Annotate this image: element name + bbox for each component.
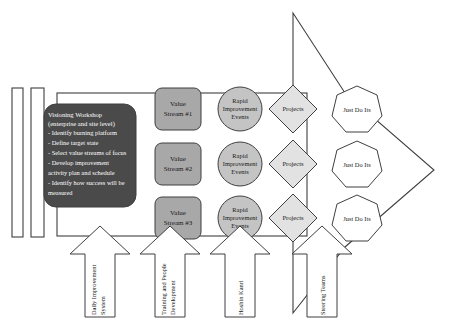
enabler-arrow-2-line1: Training and People [160,263,167,315]
enabler-arrow-1-line2: System [99,296,106,315]
left-bar-1 [12,88,23,237]
diagram-svg: Visioning Workshop (enterprise and site … [0,0,449,329]
rie-1-line2: Improvement [223,105,258,112]
visioning-bullet-4: - Develop improvement [48,159,109,166]
just-do-it-3-label: Just Do Its [343,215,371,222]
value-stream-3-line1: Value [170,209,186,217]
rie-2-line1: Rapid [232,152,248,159]
rie-2-line3: Events [231,168,249,175]
rie-3-line2: Improvement [223,214,258,221]
projects-2-label: Projects [282,160,304,167]
value-stream-1-line2: Stream #1 [164,110,193,118]
visioning-heading-line-1: Visioning Workshop [48,111,103,118]
visioning-bullet-1: - Identify burning platform [48,129,117,136]
left-bar-2 [31,88,44,237]
value-stream-box-1[interactable] [155,88,201,130]
rie-1-line3: Events [231,113,249,120]
visioning-bullet-3: - Select value streams of focus [48,149,127,156]
visioning-bullet-2: - Define target state [48,139,99,146]
enabler-arrow-3-line1: Hoshin Kanri [237,280,244,315]
just-do-it-1-label: Just Do Its [343,106,371,113]
value-stream-box-3[interactable] [155,197,201,239]
enabler-arrow-4-line1: Steering Teams [319,275,326,315]
value-stream-2-line2: Stream #2 [164,165,193,173]
diagram-canvas: Visioning Workshop (enterprise and site … [0,0,449,329]
projects-1-label: Projects [282,105,304,112]
visioning-bullet-5: - Identify how success will be [48,179,125,186]
rie-1-line1: Rapid [232,97,248,104]
value-stream-2-line1: Value [170,155,186,163]
value-stream-3-line2: Stream #3 [164,219,193,227]
enabler-arrow-1-line1: Daily Improvement [90,265,97,315]
visioning-bullet-5-cont: measured [48,189,73,196]
projects-3-label: Projects [282,214,304,221]
visioning-heading-line-2: (enterprise and site level) [48,120,115,128]
just-do-it-2-label: Just Do Its [343,161,371,168]
value-stream-box-2[interactable] [155,143,201,185]
value-stream-1-line1: Value [170,100,186,108]
rie-3-line1: Rapid [232,206,248,213]
rie-2-line2: Improvement [223,160,258,167]
visioning-bullet-4-cont: activity plan and schedule [48,169,115,176]
enabler-arrow-2-line2: Development [169,280,176,315]
